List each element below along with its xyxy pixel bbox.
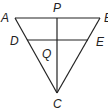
label-a: A <box>0 11 9 25</box>
label-p: P <box>53 1 61 15</box>
triangle-diagram: A B P D E Q C <box>0 0 108 112</box>
label-b: B <box>104 11 108 25</box>
segment-bc <box>57 18 100 93</box>
label-e: E <box>96 35 105 49</box>
label-q: Q <box>42 47 51 61</box>
label-c: C <box>53 97 62 111</box>
label-d: D <box>10 34 19 48</box>
